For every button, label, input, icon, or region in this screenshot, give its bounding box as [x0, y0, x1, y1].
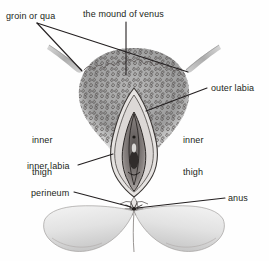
label-outer-labia: outer labia: [211, 83, 254, 94]
label-mound-of-venus: the mound of venus: [83, 9, 164, 20]
label-perineum: perineum: [31, 188, 69, 199]
label-groin: groin or qua: [6, 11, 55, 22]
label-inner-labia: inner labia: [27, 161, 70, 172]
leader-line-inner-labia: [78, 154, 113, 165]
groin-fold-right-shape: [186, 45, 221, 73]
label-inner-thigh-right-line1: inner: [183, 135, 204, 146]
groin-fold-left-shape: [47, 45, 82, 73]
label-inner-thigh-left-line1: inner: [32, 135, 53, 146]
leader-line-perineum: [74, 192, 131, 207]
anatomy-diagram-figure: groin or qua the mound of venus outer la…: [0, 0, 269, 261]
label-inner-thigh-right: inner thigh: [183, 114, 204, 198]
label-inner-thigh-right-line2: thigh: [183, 167, 204, 178]
label-anus: anus: [228, 193, 248, 204]
label-inner-thigh-left: inner thigh: [32, 114, 53, 198]
buttocks-shape: [44, 206, 225, 252]
